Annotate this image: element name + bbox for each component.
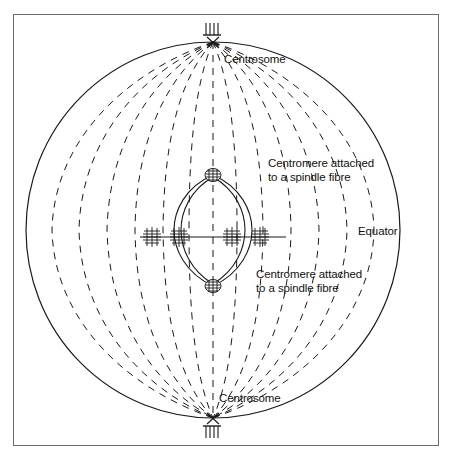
- spindle-fibre: [189, 42, 213, 418]
- centromere-bottom: [205, 280, 221, 293]
- chromosome: [170, 227, 188, 247]
- label-centrosome-top: Centrosome: [224, 53, 286, 67]
- chromosome: [223, 227, 241, 247]
- label-centrosome-bottom: Centrosome: [219, 392, 281, 406]
- centromere-top: [205, 169, 221, 182]
- label-centromere-attached-bottom: Centromere attached to a spindle fibre: [256, 268, 362, 295]
- spindle-fibre: [52, 42, 213, 418]
- spindle-left-outer: [174, 175, 213, 286]
- diagram-page: Centrosome Centrosome Equator Centromere…: [0, 0, 452, 461]
- spindle-fibre-group: [52, 42, 374, 418]
- spindle-right-outer: [213, 175, 252, 286]
- chromosome: [251, 227, 269, 247]
- centriole-top-icon: [203, 23, 221, 35]
- spindle-fibre: [213, 42, 263, 418]
- chromosome: [143, 227, 161, 247]
- spindle-fibre: [213, 42, 347, 418]
- spindle-fibre: [163, 42, 213, 418]
- spindle-left-inner: [181, 177, 213, 284]
- spindle-fibre: [213, 42, 237, 418]
- label-centromere-attached-top: Centromere attached to a spindle fibre: [268, 157, 374, 184]
- label-equator: Equator: [358, 225, 398, 239]
- spindle-right-inner: [213, 177, 245, 284]
- centriole-bottom-icon: [203, 426, 221, 438]
- spindle-fibre: [79, 42, 213, 418]
